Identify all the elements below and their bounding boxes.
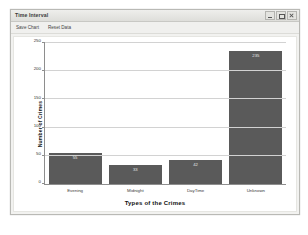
- y-axis-tick: [42, 98, 45, 99]
- gridline: [45, 98, 286, 99]
- x-axis-tick-label: Midnight: [109, 188, 162, 193]
- gridline: [45, 42, 286, 43]
- bar-slot: 42DayTime: [169, 43, 222, 184]
- bar-value-label: 235: [229, 53, 282, 58]
- minimize-button[interactable]: [265, 11, 275, 20]
- x-axis-tick-label: DayTime: [169, 188, 222, 193]
- menu-item-reset-data[interactable]: Reset Data: [48, 22, 71, 33]
- chart-panel: Number of Crimes 55Evening33Midnight42Da…: [13, 36, 297, 212]
- y-axis-tick-label: 100: [34, 122, 41, 127]
- y-axis-tick: [42, 42, 45, 43]
- menu-bar: Save Chart Reset Data: [11, 22, 299, 34]
- gridline: [45, 127, 286, 128]
- bar-slot: 33Midnight: [109, 43, 162, 184]
- application-window: Time Interval Save Chart Reset Data Numb…: [10, 9, 300, 215]
- gridline: [45, 155, 286, 156]
- close-button[interactable]: [287, 11, 297, 20]
- menu-item-save-chart[interactable]: Save Chart: [16, 22, 39, 33]
- y-axis-tick: [42, 127, 45, 128]
- bar-value-label: 42: [169, 162, 222, 167]
- bar-series: 55Evening33Midnight42DayTime235Unknown: [45, 43, 286, 184]
- bar[interactable]: 33: [109, 165, 162, 184]
- y-axis-tick-label: 250: [34, 38, 41, 43]
- y-axis-tick: [42, 70, 45, 71]
- bar-slot: 55Evening: [49, 43, 102, 184]
- bar[interactable]: 42: [169, 160, 222, 184]
- window-title-bar: Time Interval: [11, 10, 299, 22]
- x-axis-label: Types of the Crimes: [14, 200, 296, 206]
- bar[interactable]: 235: [229, 51, 282, 184]
- window-controls: [265, 11, 297, 20]
- gridline: [45, 70, 286, 71]
- y-axis-tick: [42, 155, 45, 156]
- bar[interactable]: 55: [49, 153, 102, 184]
- bar-slot: 235Unknown: [229, 43, 282, 184]
- y-axis-tick: [42, 183, 45, 184]
- window-title: Time Interval: [15, 10, 265, 21]
- y-axis-tick-label: 50: [36, 151, 41, 156]
- maximize-button[interactable]: [276, 11, 286, 20]
- x-axis-tick-label: Evening: [49, 188, 102, 193]
- y-axis-tick-label: 200: [34, 66, 41, 71]
- x-axis-tick-label: Unknown: [229, 188, 282, 193]
- bar-value-label: 33: [109, 167, 162, 172]
- y-axis-tick-label: 0: [39, 179, 41, 184]
- y-axis-tick-label: 150: [34, 94, 41, 99]
- plot-area: 55Evening33Midnight42DayTime235Unknown 0…: [44, 43, 286, 185]
